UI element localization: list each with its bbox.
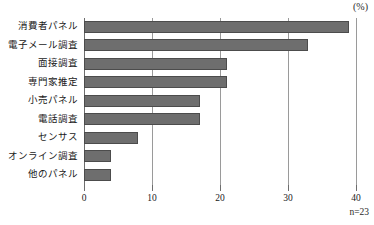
sample-size-note: n=23 — [349, 207, 369, 218]
chart-row: オンライン調査 — [84, 148, 356, 167]
bar-電子メール調査 — [84, 39, 308, 51]
x-tick-mark-10 — [152, 185, 153, 191]
x-tick-mark-0 — [84, 185, 85, 191]
category-label: 電子メール調査 — [0, 37, 78, 54]
bar-消費者パネル — [84, 21, 349, 33]
chart-row: 電話調査 — [84, 111, 356, 130]
x-tick-label-40: 40 — [351, 192, 361, 204]
category-label: 他のパネル — [0, 166, 78, 183]
x-tick-label-10: 10 — [147, 192, 157, 204]
axis-unit-label: (%) — [353, 1, 368, 13]
category-label: 専門家推定 — [0, 74, 78, 91]
category-label: 電話調査 — [0, 111, 78, 128]
bar-他のパネル — [84, 169, 111, 181]
bar-chart: (%) 消費者パネル電子メール調査面接調査専門家推定小売パネル電話調査センサスオ… — [0, 0, 374, 225]
chart-row: 電子メール調査 — [84, 37, 356, 56]
bar-センサス — [84, 132, 138, 144]
x-tick-label-20: 20 — [215, 192, 225, 204]
category-label: 面接調査 — [0, 55, 78, 72]
x-tick-mark-40 — [356, 185, 357, 191]
category-label: 消費者パネル — [0, 18, 78, 35]
chart-row: センサス — [84, 129, 356, 148]
chart-row: 他のパネル — [84, 166, 356, 185]
category-label: センサス — [0, 129, 78, 146]
gridline-40 — [356, 18, 357, 185]
category-label: オンライン調査 — [0, 148, 78, 165]
chart-row: 専門家推定 — [84, 74, 356, 93]
bar-専門家推定 — [84, 76, 227, 88]
x-tick-mark-30 — [288, 185, 289, 191]
bar-面接調査 — [84, 58, 227, 70]
chart-row: 小売パネル — [84, 92, 356, 111]
category-label: 小売パネル — [0, 92, 78, 109]
chart-row: 消費者パネル — [84, 18, 356, 37]
x-tick-label-30: 30 — [283, 192, 293, 204]
bar-電話調査 — [84, 113, 200, 125]
x-tick-label-0: 0 — [82, 192, 87, 204]
bar-小売パネル — [84, 95, 200, 107]
bar-オンライン調査 — [84, 150, 111, 162]
chart-row: 面接調査 — [84, 55, 356, 74]
x-axis: 010203040 — [84, 185, 356, 213]
x-tick-mark-20 — [220, 185, 221, 191]
plot-area: 消費者パネル電子メール調査面接調査専門家推定小売パネル電話調査センサスオンライン… — [84, 18, 356, 185]
